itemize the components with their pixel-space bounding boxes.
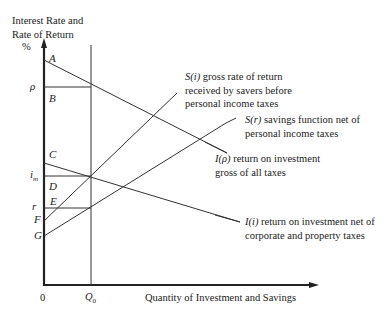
i-i-leader-line	[215, 215, 240, 222]
s-r-curve	[44, 123, 226, 236]
tick-q0-sub: 0	[93, 297, 97, 305]
x-axis-title: Quantity of Investment and Savings	[145, 291, 296, 304]
annotation-i-rho: I(ρ) return on investment gross of all t…	[215, 152, 320, 179]
point-label-c: C	[49, 148, 56, 160]
tick-rho: ρ	[30, 80, 35, 92]
s-r-line1: savings function net of	[261, 114, 360, 125]
i-rho-line2: gross of all taxes	[215, 166, 320, 180]
tick-q0: Q0	[85, 290, 96, 308]
tick-im: im	[30, 168, 38, 183]
s-i-curve	[44, 93, 177, 221]
y-axis-unit: %	[22, 40, 31, 53]
i-i-line1: return on investment net of	[258, 216, 374, 227]
diagram-canvas	[0, 0, 390, 317]
annotation-s-i: S(i) gross rate of return received by sa…	[185, 70, 292, 111]
point-label-a: A	[49, 52, 56, 64]
x-axis-arrow-icon	[309, 282, 319, 288]
i-rho-line1: return on investment	[231, 153, 321, 164]
s-i-name: S(i)	[185, 71, 200, 82]
i-i-name: I(i)	[245, 216, 258, 227]
y-axis-title-line1: Interest Rate and	[12, 14, 83, 27]
s-i-leader-line	[176, 93, 177, 94]
point-label-e: E	[50, 195, 57, 207]
tick-r: r	[32, 200, 36, 212]
point-label-f: F	[34, 213, 41, 225]
i-rho-name: I(ρ)	[215, 153, 231, 164]
s-i-line2: received by savers before	[185, 84, 292, 98]
s-i-line3: personal income taxes	[185, 97, 292, 111]
point-label-b: B	[49, 92, 56, 104]
annotation-s-r: S(r) savings function net of personal in…	[245, 113, 360, 140]
tick-q0-main: Q	[85, 291, 93, 302]
s-i-line1: gross rate of return	[200, 71, 282, 82]
s-r-line2: personal income taxes	[245, 127, 360, 141]
point-label-d: D	[49, 180, 57, 192]
tick-im-sub: m	[33, 175, 38, 183]
annotation-i-i: I(i) return on investment net of corpora…	[245, 215, 375, 242]
s-r-name: S(r)	[245, 114, 261, 125]
s-r-leader-line	[226, 118, 236, 123]
origin-label: 0	[40, 291, 45, 304]
point-label-g: G	[34, 229, 42, 241]
i-i-line2: corporate and property taxes	[245, 229, 375, 243]
